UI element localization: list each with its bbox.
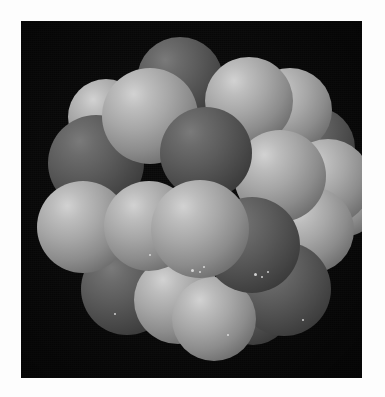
dust-speck <box>191 269 194 272</box>
dust-speck <box>254 273 257 276</box>
dust-speck <box>203 266 205 268</box>
dust-speck-layer <box>21 21 362 378</box>
page-canvas <box>0 0 385 397</box>
dust-speck <box>261 276 263 278</box>
dust-speck <box>267 271 269 273</box>
dust-speck <box>199 271 201 273</box>
dust-speck <box>114 313 116 315</box>
dust-speck <box>227 334 229 336</box>
molecular-model-figure <box>21 21 362 378</box>
dust-speck <box>149 254 151 256</box>
dust-speck <box>302 319 304 321</box>
